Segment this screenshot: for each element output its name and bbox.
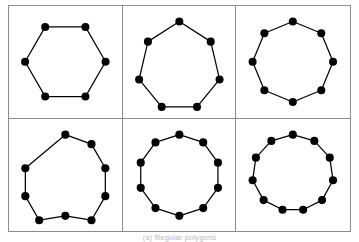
figure-root: (a) Regular polygons xyxy=(0,0,359,242)
polygon-vertex-marker xyxy=(249,176,257,184)
polygon-plot-nonagon xyxy=(9,119,122,232)
polygon-vertex-marker xyxy=(261,29,269,37)
polygon-plot-heptagon xyxy=(123,6,236,118)
polygon-vertex-marker xyxy=(21,192,29,200)
polygon-vertex-marker xyxy=(175,18,183,26)
polygon-vertex-marker xyxy=(151,138,159,146)
polygon-vertex-marker xyxy=(260,196,268,204)
heptagon-edges xyxy=(139,22,219,107)
polygon-vertex-marker xyxy=(214,158,222,166)
polygon-vertex-marker xyxy=(318,86,326,94)
polygon-vertex-marker xyxy=(81,23,89,31)
polygon-vertex-marker xyxy=(329,176,337,184)
polygon-vertex-marker xyxy=(41,93,49,101)
heptagon-vertices xyxy=(135,18,223,111)
polygon-vertex-marker xyxy=(318,196,326,204)
polygon-vertex-marker xyxy=(289,130,297,138)
polygon-vertex-marker xyxy=(157,103,165,111)
polygon-vertex-marker xyxy=(199,204,207,212)
polygon-plot-octagon xyxy=(236,6,350,118)
panel-hendecagon xyxy=(236,119,350,232)
panel-decagon xyxy=(123,119,237,232)
polygon-vertex-marker xyxy=(289,18,297,26)
polygon-vertex-marker xyxy=(87,216,95,224)
polygon-vertex-marker xyxy=(21,164,29,172)
polygon-vertex-marker xyxy=(249,58,257,66)
polygon-vertex-marker xyxy=(61,130,69,138)
polygon-vertex-marker xyxy=(193,103,201,111)
hexagon-edges xyxy=(25,27,105,97)
polygon-vertex-marker xyxy=(279,205,287,213)
polygon-vertex-marker xyxy=(87,140,95,148)
polygon-vertex-marker xyxy=(102,58,110,66)
polygon-vertex-marker xyxy=(151,204,159,212)
polygon-vertex-marker xyxy=(41,23,49,31)
polygon-vertex-marker xyxy=(144,38,152,46)
polygon-vertex-marker xyxy=(206,38,214,46)
polygon-vertex-marker xyxy=(101,192,109,200)
polygon-vertex-marker xyxy=(135,75,143,83)
polygon-vertex-marker xyxy=(214,183,222,191)
octagon-vertices xyxy=(249,18,337,106)
panel-octagon xyxy=(236,6,350,119)
panel-heptagon xyxy=(123,6,237,119)
polygon-vertex-marker xyxy=(21,58,29,66)
panel-hexagon xyxy=(9,6,123,119)
polygon-vertex-marker xyxy=(326,153,334,161)
polygon-vertex-marker xyxy=(299,205,307,213)
polygon-vertex-marker xyxy=(81,93,89,101)
hexagon-vertices xyxy=(21,23,109,101)
decagon-vertices xyxy=(136,130,221,219)
polygon-vertex-marker xyxy=(136,158,144,166)
polygon-plot-hendecagon xyxy=(236,119,350,232)
polygon-panel-grid xyxy=(8,5,351,232)
polygon-plot-decagon xyxy=(123,119,236,232)
polygon-vertex-marker xyxy=(101,164,109,172)
polygon-vertex-marker xyxy=(175,130,183,138)
hendecagon-vertices xyxy=(249,130,337,213)
figure-caption: (a) Regular polygons xyxy=(0,233,359,242)
polygon-vertex-marker xyxy=(289,98,297,106)
polygon-vertex-marker xyxy=(215,75,223,83)
polygon-vertex-marker xyxy=(311,136,319,144)
polygon-vertex-marker xyxy=(199,138,207,146)
nonagon-vertices xyxy=(21,130,109,224)
panel-nonagon xyxy=(9,119,123,232)
polygon-vertex-marker xyxy=(175,211,183,219)
polygon-plot-hexagon xyxy=(9,6,122,118)
polygon-vertex-marker xyxy=(329,58,337,66)
polygon-vertex-marker xyxy=(35,216,43,224)
decagon-edges xyxy=(140,134,217,215)
polygon-vertex-marker xyxy=(261,86,269,94)
polygon-vertex-marker xyxy=(318,29,326,37)
polygon-vertex-marker xyxy=(136,183,144,191)
polygon-vertex-marker xyxy=(61,211,69,219)
polygon-vertex-marker xyxy=(252,153,260,161)
polygon-vertex-marker xyxy=(268,136,276,144)
